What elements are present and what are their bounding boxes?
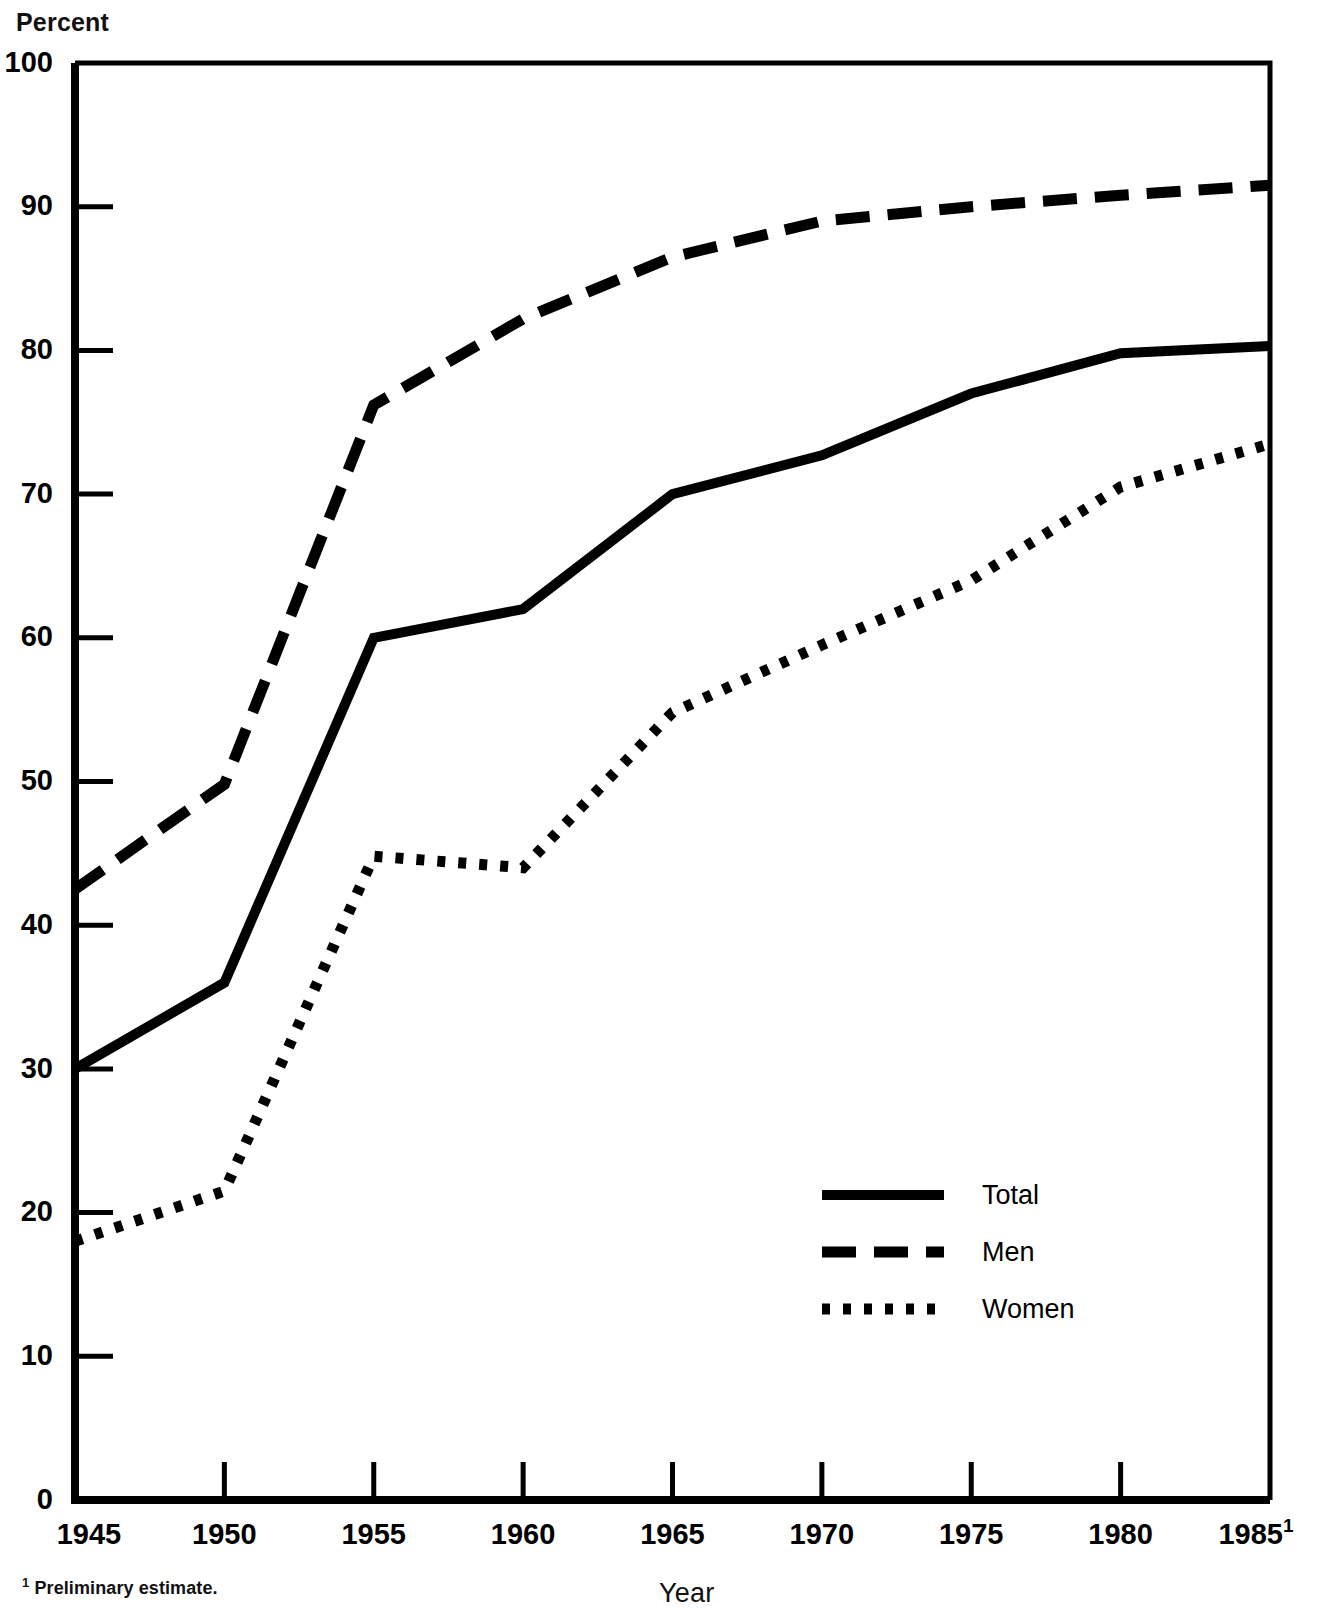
x-axis-tick-label: 1965 (640, 1518, 705, 1550)
x-axis-tick-label: 1975 (939, 1518, 1004, 1550)
footnote-text: Preliminary estimate. (29, 1578, 217, 1598)
x-axis-tick-group: 1945195019551960196519701975198019851 (57, 1462, 1294, 1550)
y-axis-tick-label: 30 (21, 1052, 53, 1084)
y-axis-tick-label: 50 (21, 764, 53, 796)
y-axis-tick-label: 80 (21, 333, 53, 365)
x-axis-title: Year (659, 1578, 714, 1609)
y-axis-tick-label: 70 (21, 477, 53, 509)
x-axis-tick-label: 1945 (57, 1518, 122, 1550)
legend-label-women: Women (982, 1294, 1075, 1324)
x-axis-tick-label: 1955 (341, 1518, 406, 1550)
y-axis-tick-label: 40 (21, 908, 53, 940)
legend-label-total: Total (982, 1180, 1039, 1210)
x-axis-tick-label: 1980 (1088, 1518, 1153, 1550)
x-axis-tick-label: 19851 (1218, 1515, 1294, 1550)
data-series-group (75, 185, 1270, 1241)
axis-frame (75, 63, 1270, 1500)
footnote: 1 Preliminary estimate. (22, 1575, 218, 1599)
y-axis-tick-group: 0102030405060708090100 (5, 46, 113, 1515)
series-line-men (75, 185, 1270, 889)
y-axis-tick-label: 10 (21, 1339, 53, 1371)
y-axis-tick-label: 100 (5, 46, 53, 78)
y-axis-tick-label: 60 (21, 620, 53, 652)
y-axis-tick-label: 90 (21, 189, 53, 221)
series-line-women (75, 444, 1270, 1242)
line-chart-plot: 0102030405060708090100 19451950195519601… (0, 0, 1333, 1618)
x-axis-tick-label: 1970 (790, 1518, 855, 1550)
x-axis-tick-label: 1950 (192, 1518, 257, 1550)
y-axis-tick-label: 20 (21, 1195, 53, 1227)
legend-label-men: Men (982, 1237, 1035, 1267)
chart-root: Percent 0102030405060708090100 194519501… (0, 0, 1333, 1618)
y-axis-tick-label: 0 (37, 1483, 53, 1515)
chart-legend: TotalMenWomen (822, 1180, 1075, 1324)
x-axis-tick-label: 1960 (491, 1518, 556, 1550)
